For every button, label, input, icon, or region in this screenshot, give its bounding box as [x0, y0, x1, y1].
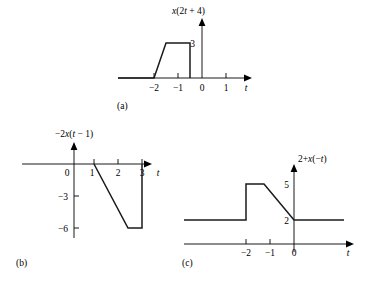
panel-b-title: −2x(t − 1)	[55, 129, 93, 140]
panel-c-xtick-1: −1	[265, 248, 275, 258]
panel-a-xtick-0: −2	[149, 83, 159, 93]
panel-b-ytick-1: −6	[58, 224, 68, 234]
panel-b-xtick-3: 3	[140, 168, 145, 178]
signal-plots-figure: x(2t + 4) −2 −1 0 1 t 3 (a)	[0, 0, 368, 290]
panel-a-x-axis-arrow	[244, 75, 252, 82]
panel-b-sublabel: (b)	[16, 258, 27, 268]
panel-c-ytick-1: 2	[284, 216, 289, 226]
panel-b-xtick-1: 1	[90, 168, 95, 178]
panel-a-xtick-3: 1	[224, 83, 229, 93]
panel-a-signal-curve	[118, 43, 190, 78]
panel-c-sublabel: (c)	[182, 258, 193, 268]
plot-panel-a: x(2t + 4) −2 −1 0 1 t 3	[110, 2, 260, 102]
panel-a-title: x(2t + 4)	[171, 6, 205, 17]
panel-b-x-axis-arrow	[144, 161, 152, 168]
panel-c-xtick-0: −2	[241, 248, 251, 258]
panel-a-axis-name: t	[245, 83, 248, 93]
panel-b-ytick-0: −3	[58, 192, 68, 202]
panel-c-ytick-0: 5	[284, 180, 289, 190]
panel-c-x-axis-arrow	[346, 241, 354, 248]
panel-c-title: 2+x(−t)	[298, 154, 327, 165]
panel-b-xtick-2: 2	[116, 168, 121, 178]
panel-a-xtick-2: 0	[200, 83, 205, 93]
panel-c-signal-curve	[184, 184, 344, 220]
panel-c-axis-name: t	[347, 248, 350, 258]
panel-a-xtick-1: −1	[173, 83, 183, 93]
panel-c-y-axis-arrow	[291, 164, 298, 172]
panel-b-axis-name: t	[157, 168, 160, 178]
plot-panel-b: −2x(t − 1) 0 1 2 3 t −3 −6	[18, 126, 178, 246]
plot-panel-c: 2+x(−t) −2 −1 0 t 5 2	[178, 148, 366, 260]
panel-a-sublabel: (a)	[117, 101, 128, 111]
panel-a-y-axis-arrow	[199, 18, 206, 26]
panel-a-ytick-0: 3	[190, 39, 195, 49]
panel-c-xtick-2: 0	[292, 248, 297, 258]
panel-b-y-axis-arrow	[71, 142, 78, 150]
panel-b-xtick-0: 0	[65, 168, 70, 178]
